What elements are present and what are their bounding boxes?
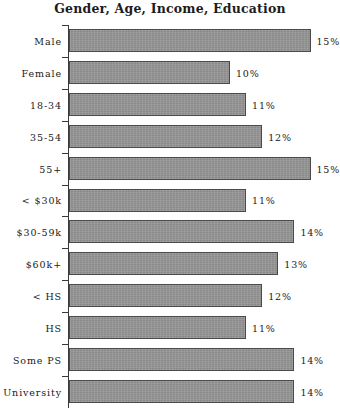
axis-tick <box>62 280 69 281</box>
axis-tick <box>62 121 69 122</box>
bar[interactable] <box>69 252 278 275</box>
bar-row[interactable]: 35-5412% <box>0 121 340 153</box>
axis-tick <box>62 312 69 313</box>
bar-value-label: 14% <box>300 386 324 397</box>
bar-category-label: HS <box>45 323 62 334</box>
axis-tick <box>62 216 69 217</box>
axis-tick <box>62 185 69 186</box>
bar-category-label: $30-59k <box>17 227 63 238</box>
bar-value-label: 12% <box>268 291 292 302</box>
bar-row[interactable]: Some PS14% <box>0 344 340 376</box>
bar-row[interactable]: < $30k11% <box>0 185 340 217</box>
bar-category-label: 18-34 <box>30 99 62 110</box>
bar[interactable] <box>69 316 246 339</box>
bar-row[interactable]: Female10% <box>0 57 340 89</box>
bar-row[interactable]: Male15% <box>0 25 340 57</box>
bar-row[interactable]: < HS12% <box>0 280 340 312</box>
bar-row[interactable]: $60k+13% <box>0 248 340 280</box>
axis-tick <box>62 248 69 249</box>
bar[interactable] <box>69 348 294 371</box>
bar[interactable] <box>69 61 230 84</box>
plot-area: Male15%Female10%18-3411%35-5412%55+15%< … <box>0 25 340 408</box>
axis-tick <box>62 153 69 154</box>
bar-value-label: 11% <box>252 195 276 206</box>
bar[interactable] <box>69 93 246 116</box>
bar[interactable] <box>69 284 262 307</box>
bar-category-label: $60k+ <box>26 259 62 270</box>
bar-value-label: 10% <box>236 67 260 78</box>
bar-value-label: 11% <box>252 99 276 110</box>
bar[interactable] <box>69 157 311 180</box>
axis-tick <box>62 57 69 58</box>
bar-chart: Gender, Age, Income, Education Male15%Fe… <box>0 0 340 408</box>
bar-row[interactable]: 55+15% <box>0 153 340 185</box>
bar-value-label: 15% <box>317 35 340 46</box>
bar-value-label: 12% <box>268 131 292 142</box>
bar-value-label: 11% <box>252 323 276 334</box>
bar[interactable] <box>69 189 246 212</box>
bar-category-label: < $30k <box>22 195 62 206</box>
bar-value-label: 14% <box>300 227 324 238</box>
bar[interactable] <box>69 29 311 52</box>
bar-value-label: 13% <box>284 259 308 270</box>
bar-row[interactable]: 18-3411% <box>0 89 340 121</box>
axis-tick <box>62 89 69 90</box>
bar-row[interactable]: University14% <box>0 376 340 408</box>
bar-category-label: Some PS <box>13 354 62 365</box>
bar-row[interactable]: $30-59k14% <box>0 216 340 248</box>
bar-category-label: University <box>3 386 62 397</box>
bar-category-label: 55+ <box>39 163 62 174</box>
bar-value-label: 14% <box>300 354 324 365</box>
bar-category-label: Female <box>22 67 62 78</box>
bar[interactable] <box>69 125 262 148</box>
bar-category-label: 35-54 <box>30 131 62 142</box>
bar[interactable] <box>69 220 294 243</box>
axis-tick <box>62 25 69 26</box>
axis-tick <box>62 376 69 377</box>
bar-value-label: 15% <box>317 163 340 174</box>
chart-title: Gender, Age, Income, Education <box>0 1 340 16</box>
bar-category-label: Male <box>34 35 62 46</box>
bar[interactable] <box>69 380 294 403</box>
axis-tick <box>62 344 69 345</box>
bar-row[interactable]: HS11% <box>0 312 340 344</box>
bar-category-label: < HS <box>33 291 62 302</box>
